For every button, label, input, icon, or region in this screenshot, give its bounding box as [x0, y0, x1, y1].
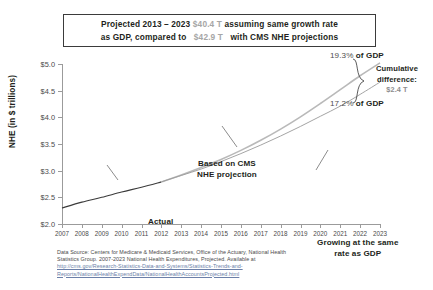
source-line-1: Data Source: Centers for Medicare & Medi… [57, 249, 387, 256]
chart-figure: Projected 2013 – 2023 $40.4 T assuming s… [0, 0, 433, 290]
x-tick-mark [82, 224, 83, 228]
callout-bottom-percent-value: 17.2% [330, 99, 353, 108]
x-tick-label: 2013 [174, 230, 188, 237]
x-tick-mark [281, 224, 282, 228]
annotation-cms-line-1: Based on CMS [197, 158, 257, 169]
x-tick-label: 2022 [353, 230, 367, 237]
x-tick-label: 2020 [313, 230, 327, 237]
x-tick-mark [62, 224, 63, 228]
title-line-1: Projected 2013 – 2023 $40.4 T assuming s… [101, 18, 338, 31]
x-tick-label: 2012 [154, 230, 168, 237]
series-line-gdp-growth [161, 82, 380, 182]
y-tick-label: $3.0 [41, 166, 55, 175]
leader-line-actual [107, 165, 118, 180]
x-tick-mark [320, 224, 321, 228]
title-line-1-prefix: Projected 2013 – 2023 [101, 19, 190, 29]
cumulative-label-line-1: Cumulative [364, 64, 430, 75]
series-line-actual [62, 182, 161, 208]
title-line-2: as GDP, compared to $42.9 T with CMS NHE… [101, 31, 338, 44]
cumulative-label-line-2: difference: [364, 75, 430, 86]
x-tick-label: 2009 [95, 230, 109, 237]
y-tick-label: $4.0 [41, 113, 55, 122]
x-tick-label: 2018 [274, 230, 288, 237]
x-tick-mark [360, 224, 361, 228]
x-tick-label: 2021 [333, 230, 347, 237]
source-url-line-2[interactable]: Reports/NationalHealthExpendData/Nationa… [57, 271, 387, 278]
y-tick-label: $4.5 [41, 86, 55, 95]
title-line-1-suffix: assuming same growth rate [225, 19, 339, 29]
chart-title-box: Projected 2013 – 2023 $40.4 T assuming s… [63, 14, 376, 47]
x-tick-label: 2008 [75, 230, 89, 237]
source-line-2: Statistics Group. 2007-2023 National Hea… [57, 256, 387, 263]
source-note: Data Source: Centers for Medicare & Medi… [57, 249, 387, 278]
x-tick-mark [221, 224, 222, 228]
x-tick-mark [181, 224, 182, 228]
x-tick-mark [261, 224, 262, 228]
y-tick-label: $5.0 [41, 60, 55, 69]
title-line-1-amount: $40.4 T [193, 19, 222, 29]
annotation-actual: Actual [148, 216, 173, 227]
callout-cumulative-difference: Cumulative difference: $2.4 T [364, 64, 430, 96]
x-tick-mark [201, 224, 202, 228]
x-tick-label: 2011 [135, 230, 149, 237]
x-tick-mark [102, 224, 103, 228]
x-tick-mark [380, 224, 381, 228]
annotation-cms-projection: Based on CMS NHE projection [197, 158, 257, 180]
y-tick-label: $2.5 [41, 193, 55, 202]
x-tick-label: 2016 [234, 230, 248, 237]
y-axis-title: NHE (in $ trillions) [8, 75, 17, 148]
leader-line-gdp [316, 150, 328, 170]
x-tick-label: 2015 [214, 230, 228, 237]
annotation-gdp-line-1: Growing at the same [317, 237, 399, 248]
source-url-line-1[interactable]: http://cms.gov/Research-Statistics-Data-… [57, 263, 387, 270]
series-line-cms-projection [161, 63, 380, 182]
title-line-2-suffix: with CMS NHE projections [230, 32, 338, 42]
x-tick-label: 2017 [254, 230, 268, 237]
title-line-2-prefix: as GDP, compared to [101, 32, 187, 42]
x-tick-mark [142, 224, 143, 228]
x-tick-label: 2019 [293, 230, 307, 237]
annotation-cms-line-2: NHE projection [197, 169, 257, 180]
callout-top-percent-value: 19.3% [330, 51, 353, 60]
y-tick-label: $2.0 [41, 220, 55, 229]
plot-area: $2.0$2.5$3.0$3.5$4.0$4.5$5.0 20072008200… [62, 64, 380, 224]
x-tick-mark [340, 224, 341, 228]
y-tick-label: $3.5 [41, 140, 55, 149]
x-tick-label: 2010 [115, 230, 129, 237]
chart-curves [62, 64, 380, 224]
x-tick-label: 2014 [194, 230, 208, 237]
x-tick-label: 2023 [373, 230, 387, 237]
x-tick-mark [241, 224, 242, 228]
title-line-2-amount: $42.9 T [194, 32, 223, 42]
leader-line-cms [222, 126, 237, 147]
x-tick-mark [301, 224, 302, 228]
x-tick-mark [122, 224, 123, 228]
cumulative-value: $2.4 T [364, 85, 430, 96]
x-tick-label: 2007 [55, 230, 69, 237]
